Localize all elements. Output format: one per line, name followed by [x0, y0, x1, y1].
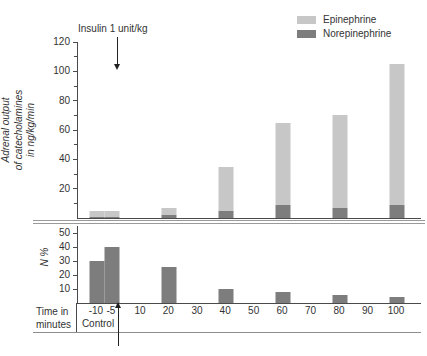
- nbar-40: [219, 289, 234, 303]
- top-y-tick-60: [73, 130, 78, 131]
- x-tick-label-80: 80: [333, 306, 344, 316]
- top-y-minor-tick-90: [74, 86, 78, 87]
- bottom-y-tick-label-40: 40: [59, 242, 70, 252]
- bar-norepinephrine-60: [276, 205, 291, 218]
- bar-epinephrine--10: [89, 211, 104, 217]
- nbar-100: [389, 297, 404, 303]
- top-y-tick-120: [73, 42, 78, 43]
- bar-norepinephrine--5: [104, 217, 119, 218]
- bottom-y-tick-40: [73, 247, 78, 248]
- top-y-tick-80: [73, 100, 78, 101]
- bar-epinephrine-20: [162, 208, 177, 215]
- x-tick-label-30: 30: [191, 306, 202, 316]
- bar-norepinephrine-40: [219, 211, 234, 218]
- top-y-minor-tick-110: [74, 56, 78, 57]
- nbar--10: [89, 261, 104, 303]
- bottom-y-tick-label-20: 20: [59, 270, 70, 280]
- x-axis-title: Time in minutes: [36, 305, 71, 331]
- bottom-y-tick-50: [73, 233, 78, 234]
- top-y-axis-label-line3: in ng/kg/min: [25, 59, 38, 201]
- bar-epinephrine-40: [219, 167, 234, 211]
- bar-norepinephrine-80: [333, 208, 348, 218]
- x-tick-label-20: 20: [163, 306, 174, 316]
- nbar-20: [162, 267, 177, 303]
- bar-epinephrine-80: [333, 115, 348, 207]
- bar-norepinephrine-100: [389, 205, 404, 218]
- nbar-60: [276, 292, 291, 303]
- top-y-tick-20: [73, 188, 78, 189]
- bar-epinephrine-100: [389, 64, 404, 205]
- panel-separator-line-2: [33, 223, 425, 224]
- top-plot: 20406080100120: [77, 42, 421, 219]
- bottom-y-tick-20: [73, 275, 78, 276]
- figure: Epinephrine Norepinephrine Insulin 1 uni…: [0, 0, 427, 356]
- legend-label-epinephrine: Epinephrine: [323, 15, 376, 25]
- bottom-y-tick-label-50: 50: [59, 228, 70, 238]
- top-y-axis-label-line2: of catecholamines: [13, 59, 26, 201]
- top-y-tick-label-20: 20: [59, 184, 70, 194]
- bar-norepinephrine--10: [89, 217, 104, 218]
- top-y-tick-label-100: 100: [53, 66, 70, 76]
- epinephrine-swatch: [297, 16, 316, 24]
- panel-separator-line-1: [33, 220, 425, 221]
- top-y-minor-tick-50: [74, 144, 78, 145]
- x-axis-title-line2: minutes: [36, 318, 71, 331]
- x-axis-title-line1: Time in: [36, 305, 71, 318]
- insulin-annotation: Insulin 1 unit/kg: [78, 23, 148, 34]
- x-tick-label-50: 50: [248, 306, 259, 316]
- norepinephrine-swatch: [297, 30, 316, 38]
- injection-arrow-line: [118, 308, 119, 346]
- bar-epinephrine-60: [276, 123, 291, 205]
- x-tick-label-40: 40: [220, 306, 231, 316]
- x-tick-label-100: 100: [388, 306, 405, 316]
- legend: Epinephrine Norepinephrine: [297, 13, 391, 41]
- x-tick-label-10: 10: [135, 306, 146, 316]
- bottom-y-tick-30: [73, 261, 78, 262]
- top-y-tick-40: [73, 159, 78, 160]
- bottom-y-axis-label: N %: [38, 237, 52, 277]
- nbar-80: [333, 295, 348, 303]
- control-label: Control: [78, 318, 118, 329]
- bar-norepinephrine-20: [162, 215, 177, 218]
- legend-item-norepinephrine: Norepinephrine: [297, 27, 391, 41]
- x-tick-label-90: 90: [362, 306, 373, 316]
- legend-item-epinephrine: Epinephrine: [297, 13, 391, 27]
- top-y-axis-label: Adrenal output of catecholamines in ng/k…: [0, 59, 40, 201]
- nbar--5: [104, 247, 119, 303]
- top-y-minor-tick-10: [74, 203, 78, 204]
- top-y-tick-100: [73, 71, 78, 72]
- top-y-tick-label-80: 80: [59, 96, 70, 106]
- top-y-axis-label-line1: Adrenal output: [0, 59, 13, 201]
- x-tick-label-70: 70: [305, 306, 316, 316]
- x-ticks-row: -10-5102030405060708090100: [77, 306, 420, 318]
- top-y-tick-label-120: 120: [53, 37, 70, 47]
- bottom-y-tick-label-10: 10: [59, 284, 70, 294]
- top-y-minor-tick-70: [74, 115, 78, 116]
- legend-label-norepinephrine: Norepinephrine: [323, 29, 391, 39]
- bottom-plot: 1020304050: [77, 226, 421, 304]
- x-tick-label--10: -10: [89, 306, 103, 316]
- bottom-y-tick-10: [73, 289, 78, 290]
- top-y-minor-tick-30: [74, 174, 78, 175]
- bar-epinephrine--5: [104, 211, 119, 217]
- top-y-tick-label-60: 60: [59, 125, 70, 135]
- top-y-tick-label-40: 40: [59, 154, 70, 164]
- x-tick-label-60: 60: [277, 306, 288, 316]
- bottom-border-line: [33, 332, 421, 333]
- bottom-y-tick-label-30: 30: [59, 256, 70, 266]
